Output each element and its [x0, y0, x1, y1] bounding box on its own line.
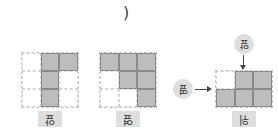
left-direction-bubble: 옆	[173, 79, 193, 99]
filled-cell	[41, 71, 60, 89]
empty-cell	[22, 89, 41, 107]
arrow-right-icon	[195, 89, 209, 90]
top-direction-bubble: 앞	[234, 34, 254, 54]
side-view-grid	[99, 52, 157, 108]
filled-cell	[137, 71, 156, 89]
left-direction-text: 옆	[179, 79, 188, 99]
bracket: )	[123, 3, 129, 22]
top-view-grid	[215, 70, 273, 108]
filled-cell	[235, 89, 254, 107]
filled-cell	[41, 89, 60, 107]
empty-cell	[22, 71, 41, 89]
filled-cell	[137, 53, 156, 71]
empty-cell	[59, 71, 78, 89]
side-view-label: 옆	[116, 111, 140, 127]
filled-cell	[253, 89, 272, 107]
empty-cell	[22, 53, 41, 71]
top-direction-text: 앞	[240, 34, 249, 54]
filled-cell	[41, 53, 60, 71]
arrow-down-icon	[243, 55, 244, 67]
empty-cell	[216, 71, 235, 89]
filled-cell	[119, 71, 138, 89]
empty-cell	[100, 71, 119, 89]
empty-cell	[59, 89, 78, 107]
front-view-grid	[21, 52, 79, 108]
filled-cell	[100, 53, 119, 71]
empty-cell	[119, 89, 138, 107]
filled-cell	[59, 53, 78, 71]
empty-cell	[100, 89, 119, 107]
top-view-label: 위	[232, 111, 256, 127]
filled-cell	[235, 71, 254, 89]
front-view-label: 앞	[38, 111, 62, 127]
filled-cell	[216, 89, 235, 107]
filled-cell	[137, 89, 156, 107]
filled-cell	[119, 53, 138, 71]
filled-cell	[253, 71, 272, 89]
